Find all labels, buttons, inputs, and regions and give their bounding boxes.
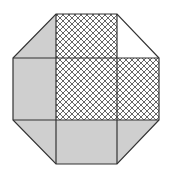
region-center <box>56 58 117 120</box>
region-bottom-middle <box>56 120 117 164</box>
region-middle-right <box>117 58 159 120</box>
octagon-grid-diagram <box>0 0 170 169</box>
region-middle-left <box>13 58 56 120</box>
region-top-middle <box>56 14 117 58</box>
